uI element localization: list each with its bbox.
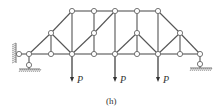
wall-hatch [12, 51, 16, 53]
load-arrow-head-icon [70, 77, 74, 82]
truss-node [16, 51, 21, 56]
truss-member [51, 11, 72, 33]
truss-member [158, 33, 180, 54]
load-arrow-head-icon [113, 77, 117, 82]
wall-hatch [12, 61, 16, 63]
truss-member [51, 33, 72, 54]
load-label-3: P [163, 75, 169, 85]
truss-node [48, 51, 53, 56]
wall-hatch [12, 49, 16, 51]
wall-hatch [12, 59, 16, 61]
truss-node [69, 51, 74, 56]
truss-node [155, 8, 160, 13]
truss-node [197, 51, 202, 56]
truss-node [197, 61, 202, 66]
figure-caption: (h) [106, 96, 117, 106]
truss-node [26, 51, 31, 56]
truss-member [94, 11, 115, 33]
truss-member [180, 33, 200, 54]
wall-hatch [12, 53, 16, 55]
truss-node [91, 8, 96, 13]
truss-node [26, 62, 31, 67]
truss-node [91, 51, 96, 56]
wall-hatch [12, 43, 16, 45]
truss-node [134, 51, 139, 56]
load-arrow-head-icon [156, 77, 160, 82]
truss-node [134, 8, 139, 13]
truss-node [69, 8, 74, 13]
truss-member [29, 33, 51, 54]
truss-node [155, 51, 160, 56]
truss-member [137, 33, 158, 54]
truss-node [48, 30, 53, 35]
truss-member [158, 11, 180, 33]
truss-node [112, 51, 117, 56]
truss-figure: P P P (h) [0, 0, 223, 112]
truss-node [112, 8, 117, 13]
wall-hatch [12, 55, 16, 57]
wall-hatch [12, 57, 16, 59]
truss-node [177, 30, 182, 35]
load-label-2: P [120, 75, 126, 85]
wall-hatch [12, 45, 16, 47]
truss-member [72, 33, 94, 54]
truss-member [115, 33, 137, 54]
truss-node [177, 51, 182, 56]
truss-node [91, 30, 96, 35]
wall-hatch [12, 47, 16, 49]
load-label-1: P [77, 75, 83, 85]
truss-node [134, 30, 139, 35]
